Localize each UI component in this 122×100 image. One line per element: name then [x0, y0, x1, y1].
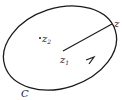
- label-z2: z2: [41, 33, 51, 45]
- point-z2-dot: [39, 37, 41, 39]
- label-z: z: [113, 18, 120, 29]
- contour-c: [0, 0, 122, 100]
- orientation-arrow-icon: [86, 57, 94, 64]
- segment-z1-to-z: [63, 24, 112, 51]
- contour-diagram: z2 z1 z C: [0, 0, 122, 100]
- label-z1: z1: [59, 54, 69, 66]
- label-contour-c: C: [21, 88, 29, 99]
